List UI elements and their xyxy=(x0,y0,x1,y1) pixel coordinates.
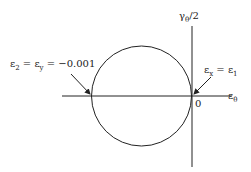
e2-value: = −0.001 xyxy=(44,58,96,69)
e1-symbol: = ε xyxy=(213,64,233,75)
left-annotation: ε2 = εy = −0.001 xyxy=(10,58,95,72)
right-arrow xyxy=(194,77,211,94)
horizontal-axis-label: εθ xyxy=(228,90,237,104)
origin-label: 0 xyxy=(195,98,201,109)
e1-subscript: 1 xyxy=(233,70,237,78)
gamma-suffix: /2 xyxy=(189,10,199,21)
left-arrow xyxy=(71,74,90,94)
vertical-axis-label: γθ/2 xyxy=(179,10,199,24)
epsilon-subscript: θ xyxy=(233,96,237,104)
mohr-circle-diagram xyxy=(0,0,251,172)
ey-symbol: = ε xyxy=(20,58,40,69)
right-annotation: εx = ε1 xyxy=(204,64,238,78)
